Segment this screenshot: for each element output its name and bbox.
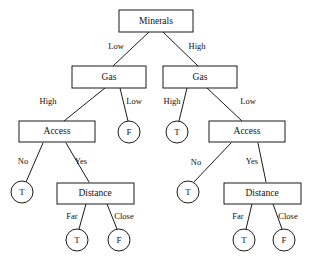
- leaf-gas-left-low-label: F: [126, 127, 131, 137]
- node-gas-left-label: Gas: [102, 72, 117, 82]
- edge-distance-left-to-leaf-t: [79, 204, 86, 229]
- edge-label-distance-right-close: Close: [278, 211, 298, 221]
- edge-gas-right-to-access-right: [207, 88, 242, 121]
- node-distance-right-label: Distance: [245, 188, 278, 198]
- internal-node-group: Minerals Gas Gas Access Access Distance …: [19, 10, 301, 204]
- node-distance-left-label: Distance: [78, 188, 111, 198]
- edge-label-gas-right-high: High: [164, 96, 182, 106]
- node-gas-right-label: Gas: [193, 72, 208, 82]
- leaf-distance-left-close-label: F: [116, 235, 121, 245]
- leaf-distance-left-far-label: T: [74, 235, 80, 245]
- edge-gas-left-to-access-left: [64, 88, 105, 121]
- edge-label-access-left-no: No: [18, 156, 28, 166]
- leaf-access-left-no-label: T: [19, 187, 25, 197]
- edge-label-root-high: High: [189, 41, 207, 51]
- edge-label-distance-left-far: Far: [66, 211, 78, 221]
- node-minerals-label: Minerals: [139, 16, 173, 26]
- edge-label-access-right-no: No: [191, 157, 201, 167]
- decision-tree-canvas: Minerals Gas Gas Access Access Distance …: [0, 0, 311, 265]
- node-access-left-label: Access: [44, 126, 71, 136]
- edge-label-gas-right-low: Low: [240, 96, 256, 106]
- edge-label-distance-left-close: Close: [114, 211, 134, 221]
- edge-label-gas-left-high: High: [40, 96, 58, 106]
- leaf-gas-right-high-label: T: [174, 127, 180, 137]
- edge-label-access-right-yes: Yes: [246, 156, 258, 166]
- decision-tree-figure: Minerals Gas Gas Access Access Distance …: [0, 0, 311, 265]
- leaf-distance-right-close-label: F: [281, 235, 286, 245]
- edge-label-root-low: Low: [108, 41, 124, 51]
- node-access-right-label: Access: [234, 126, 261, 136]
- edge-access-left-to-leaf-t: [26, 143, 43, 182]
- leaf-access-right-no-label: T: [185, 187, 191, 197]
- edge-access-right-to-distance-right: [258, 143, 266, 182]
- leaf-distance-right-far-label: T: [241, 235, 247, 245]
- edge-label-access-left-yes: Yes: [75, 156, 87, 166]
- edge-label-gas-left-low: Low: [126, 96, 142, 106]
- edge-label-distance-right-far: Far: [232, 211, 244, 221]
- edge-distance-right-to-leaf-t: [246, 204, 252, 229]
